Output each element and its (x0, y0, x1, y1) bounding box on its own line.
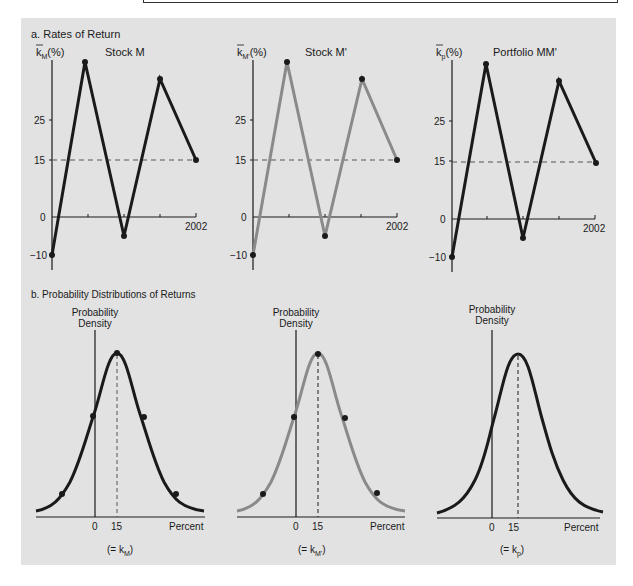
svg-text:15: 15 (235, 155, 247, 166)
svg-text:−10: −10 (30, 250, 47, 261)
svg-text:0: 0 (489, 522, 495, 533)
y-axis-label: kM(%) (36, 46, 64, 60)
svg-text:Density: Density (78, 318, 111, 329)
svg-text:25: 25 (34, 115, 46, 126)
rates-chart-portfolio: kp(%) Portfolio MM' 25 15 0 −10 2002 (429, 45, 606, 272)
svg-text:0: 0 (92, 521, 98, 532)
svg-text:15: 15 (508, 522, 520, 533)
density-curve (36, 353, 204, 511)
svg-text:15: 15 (111, 521, 123, 532)
rates-chart-stock-m-prime: kM'(%) Stock M' 25 15 0 −10 2002 (230, 45, 409, 270)
svg-text:Percent: Percent (564, 522, 599, 533)
svg-text:2002: 2002 (583, 223, 606, 234)
y-axis-label: kM'(%) (237, 46, 267, 60)
rates-chart-stock-m: kM(%) Stock M 25 15 0 −10 2002 (30, 45, 208, 270)
return-line (253, 62, 397, 255)
chart-title: Portfolio MM' (493, 46, 557, 58)
density-curve (437, 354, 603, 513)
svg-text:25: 25 (434, 116, 446, 127)
svg-text:15: 15 (312, 521, 324, 532)
distribution-chart-portfolio: Probability Density 0 15 Percent (= kp) (437, 304, 603, 558)
return-line (452, 64, 596, 257)
chart-title: Stock M (105, 46, 145, 58)
distribution-chart-stock-m-prime: Probability Density 0 15 Percent (= kM') (237, 307, 405, 557)
svg-text:0: 0 (40, 212, 46, 223)
section-a-title: a. Rates of Return (31, 28, 120, 40)
svg-text:0: 0 (241, 212, 247, 223)
svg-text:Percent: Percent (169, 521, 204, 532)
svg-text:25: 25 (235, 115, 247, 126)
mean-label: (= kp) (500, 544, 524, 558)
y-axis-label: kp(%) (436, 46, 463, 61)
svg-text:15: 15 (434, 156, 446, 167)
distribution-chart-stock-m: Probability Density 0 15 Percent (= kM) (36, 307, 205, 557)
svg-text:−10: −10 (230, 250, 247, 261)
mean-label: (= kM) (107, 544, 133, 557)
return-line (52, 62, 196, 255)
svg-text:−10: −10 (429, 252, 446, 263)
chart-title: Stock M' (305, 46, 347, 58)
figure-svg: a. Rates of Return b. Probability Distri… (0, 0, 633, 586)
svg-text:Density: Density (279, 318, 312, 329)
mean-label: (= kM') (298, 544, 325, 557)
svg-text:Probability: Probability (273, 307, 320, 318)
svg-text:2002: 2002 (185, 221, 208, 232)
svg-text:Percent: Percent (370, 521, 405, 532)
svg-text:Probability: Probability (469, 304, 516, 315)
svg-text:Probability: Probability (72, 307, 119, 318)
svg-text:0: 0 (293, 521, 299, 532)
svg-text:0: 0 (440, 214, 446, 225)
density-curve (237, 353, 405, 511)
svg-text:Density: Density (475, 315, 508, 326)
svg-text:15: 15 (34, 155, 46, 166)
section-b-title: b. Probability Distributions of Returns (31, 289, 196, 300)
svg-text:2002: 2002 (386, 221, 409, 232)
